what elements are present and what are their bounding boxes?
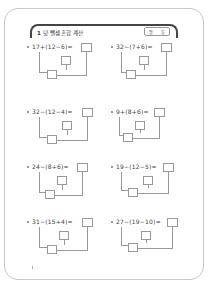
connector-line bbox=[119, 117, 120, 135]
inner-result-box[interactable] bbox=[141, 231, 151, 240]
connector-line bbox=[144, 65, 145, 70]
connector-line bbox=[57, 250, 87, 251]
problem-4: 9+(8+6)= bbox=[111, 108, 191, 154]
bullet-icon bbox=[27, 166, 29, 168]
inner-result-box[interactable] bbox=[59, 231, 69, 240]
connector-line bbox=[57, 75, 86, 76]
connector-line bbox=[39, 227, 40, 247]
connector-line bbox=[39, 117, 40, 137]
inner-result-box[interactable] bbox=[135, 121, 145, 130]
connector-line bbox=[138, 193, 168, 194]
month-label: 월 bbox=[149, 29, 153, 35]
connector-line bbox=[39, 52, 40, 72]
connector-line bbox=[39, 72, 47, 73]
answer-box[interactable] bbox=[81, 43, 92, 52]
bullet-icon bbox=[111, 166, 113, 168]
connector-line bbox=[121, 190, 128, 191]
problem-1: 17+(12−6)= bbox=[27, 43, 107, 89]
connector-line bbox=[86, 52, 87, 76]
connector-line bbox=[39, 137, 47, 138]
connector-line bbox=[148, 185, 149, 188]
connector-line bbox=[82, 172, 83, 196]
connector-line bbox=[87, 117, 88, 141]
answer-box[interactable] bbox=[82, 108, 93, 117]
problem-2: 32−(7+6)= bbox=[111, 43, 191, 89]
section-number: 1 bbox=[37, 30, 41, 36]
bullet-icon bbox=[27, 221, 29, 223]
connector-line bbox=[138, 248, 172, 249]
connector-line bbox=[87, 227, 88, 251]
day-label: 일 bbox=[161, 29, 165, 35]
section-title: 덧·뺄셈 혼합 계산 bbox=[43, 30, 83, 36]
connector-line bbox=[121, 245, 128, 246]
inner-result-box[interactable] bbox=[57, 176, 67, 185]
inner-result-box[interactable] bbox=[61, 56, 71, 65]
step-result-box[interactable] bbox=[126, 70, 136, 79]
inner-result-box[interactable] bbox=[139, 56, 149, 65]
connector-line bbox=[39, 247, 47, 248]
connector-line bbox=[57, 140, 87, 141]
inner-result-box[interactable] bbox=[143, 176, 153, 185]
connector-line bbox=[136, 75, 166, 76]
problem-expression: 32−(12−4)= bbox=[27, 108, 73, 115]
connector-line bbox=[140, 130, 141, 133]
connector-line bbox=[39, 192, 45, 193]
step-result-box[interactable] bbox=[45, 190, 55, 199]
connector-line bbox=[39, 172, 40, 192]
problem-7: 31−(15+4)= bbox=[27, 218, 107, 264]
connector-line bbox=[66, 65, 67, 70]
answer-box[interactable] bbox=[161, 43, 172, 52]
problem-expression: 27−(19−10)= bbox=[111, 218, 161, 225]
connector-line bbox=[168, 172, 169, 194]
connector-line bbox=[62, 185, 63, 190]
connector-line bbox=[64, 240, 65, 245]
inner-result-box[interactable] bbox=[62, 121, 72, 130]
answer-box[interactable] bbox=[167, 218, 178, 227]
bullet-icon bbox=[111, 46, 113, 48]
step-result-box[interactable] bbox=[128, 243, 138, 252]
connector-line bbox=[166, 52, 167, 76]
answer-box[interactable] bbox=[77, 163, 88, 172]
connector-line bbox=[133, 138, 159, 139]
bullet-icon bbox=[111, 111, 113, 113]
connector-line bbox=[121, 172, 122, 190]
problem-8: 27−(19−10)= bbox=[111, 218, 191, 264]
problem-expression: 24−(8+6)= bbox=[27, 163, 69, 170]
step-result-box[interactable] bbox=[128, 188, 138, 197]
connector-line bbox=[67, 130, 68, 135]
step-result-box[interactable] bbox=[47, 135, 57, 144]
connector-line bbox=[121, 52, 122, 72]
connector-line bbox=[119, 135, 123, 136]
step-result-box[interactable] bbox=[47, 70, 57, 79]
step-result-box[interactable] bbox=[47, 245, 57, 254]
problem-expression: 9+(8+6)= bbox=[111, 108, 149, 115]
problem-expression: 32−(7+6)= bbox=[111, 43, 153, 50]
connector-line bbox=[55, 195, 82, 196]
answer-box[interactable] bbox=[82, 218, 93, 227]
answer-box[interactable] bbox=[154, 108, 165, 117]
problem-expression: 17+(12−6)= bbox=[27, 43, 73, 50]
problem-6: 19−(12−5)= bbox=[111, 163, 191, 209]
problem-expression: 19−(12−5)= bbox=[111, 163, 157, 170]
answer-box[interactable] bbox=[163, 163, 174, 172]
bullet-icon bbox=[27, 111, 29, 113]
problem-expression: 31−(15+4)= bbox=[27, 218, 73, 225]
page-mark bbox=[32, 266, 33, 269]
problem-5: 24−(8+6)= bbox=[27, 163, 107, 209]
connector-line bbox=[172, 227, 173, 249]
connector-line bbox=[159, 117, 160, 139]
step-result-box[interactable] bbox=[123, 133, 133, 142]
worksheet-title: 1덧·뺄셈 혼합 계산 bbox=[37, 29, 83, 37]
date-box[interactable]: 월 일 bbox=[144, 27, 170, 36]
connector-line bbox=[146, 240, 147, 243]
connector-line bbox=[121, 72, 126, 73]
bullet-icon bbox=[111, 221, 113, 223]
connector-line bbox=[121, 227, 122, 245]
problem-3: 32−(12−4)= bbox=[27, 108, 107, 154]
bullet-icon bbox=[27, 46, 29, 48]
